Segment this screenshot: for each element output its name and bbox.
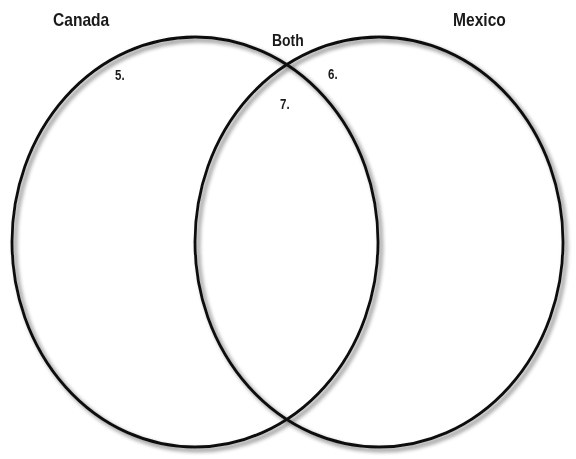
region-number-canada: 5. xyxy=(115,67,125,83)
canada-label: Canada xyxy=(53,9,109,31)
region-number-both: 7. xyxy=(280,96,290,112)
venn-ellipses xyxy=(0,0,576,459)
mexico-label: Mexico xyxy=(453,9,506,31)
both-label: Both xyxy=(272,31,304,51)
venn-diagram: Canada Mexico Both 5. 6. 7. xyxy=(0,0,576,459)
region-number-mexico: 6. xyxy=(328,66,338,82)
